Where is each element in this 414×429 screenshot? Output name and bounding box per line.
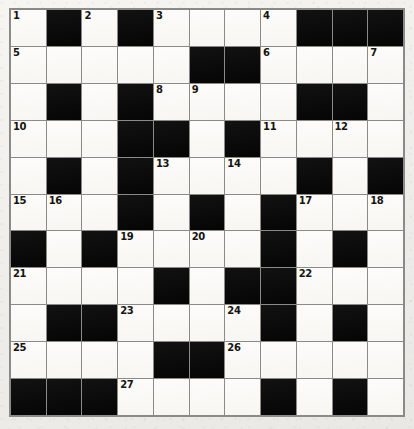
- grid-cell[interactable]: 12: [333, 121, 368, 157]
- grid-cell-blocked: [261, 231, 296, 267]
- grid-cell[interactable]: 21: [11, 268, 46, 304]
- grid-cell[interactable]: [190, 158, 225, 194]
- grid-cell[interactable]: 19: [118, 231, 153, 267]
- grid-cell-blocked: [368, 158, 403, 194]
- grid-cell[interactable]: [154, 47, 189, 83]
- grid-cell[interactable]: [297, 379, 332, 415]
- grid-cell[interactable]: [368, 231, 403, 267]
- grid-cell[interactable]: [368, 379, 403, 415]
- grid-cell[interactable]: [333, 268, 368, 304]
- grid-cell[interactable]: 15: [11, 195, 46, 231]
- grid-cell[interactable]: 17: [297, 195, 332, 231]
- grid-cell[interactable]: [225, 379, 260, 415]
- grid-cell-blocked: [225, 47, 260, 83]
- grid-cell[interactable]: [118, 47, 153, 83]
- grid-cell[interactable]: [333, 195, 368, 231]
- grid-cell[interactable]: [154, 379, 189, 415]
- grid-cell[interactable]: 24: [225, 305, 260, 341]
- grid-cell-blocked: [333, 84, 368, 120]
- grid-cell[interactable]: [82, 47, 117, 83]
- grid-cell[interactable]: 13: [154, 158, 189, 194]
- grid-cell[interactable]: 22: [297, 268, 332, 304]
- grid-cell-blocked: [82, 305, 117, 341]
- grid-cell[interactable]: 25: [11, 342, 46, 378]
- grid-cell[interactable]: [261, 84, 296, 120]
- grid-cell[interactable]: [118, 268, 153, 304]
- grid-cell[interactable]: [82, 195, 117, 231]
- grid-cell[interactable]: 11: [261, 121, 296, 157]
- grid-cell[interactable]: [11, 158, 46, 194]
- grid-cell[interactable]: [333, 47, 368, 83]
- grid-cell[interactable]: [190, 305, 225, 341]
- grid-cell[interactable]: 4: [261, 10, 296, 46]
- clue-number: 20: [192, 231, 205, 243]
- grid-cell[interactable]: [82, 158, 117, 194]
- grid-cell-blocked: [47, 10, 82, 46]
- grid-cell[interactable]: [47, 231, 82, 267]
- grid-cell[interactable]: [333, 342, 368, 378]
- crossword-grid[interactable]: 1234567891011121314151617181920212223242…: [9, 8, 405, 417]
- grid-cell[interactable]: 1: [11, 10, 46, 46]
- grid-cell[interactable]: [82, 84, 117, 120]
- grid-cell[interactable]: 7: [368, 47, 403, 83]
- grid-cell[interactable]: [154, 305, 189, 341]
- grid-cell-blocked: [333, 231, 368, 267]
- grid-cell[interactable]: 27: [118, 379, 153, 415]
- grid-cell[interactable]: [297, 342, 332, 378]
- grid-cell-blocked: [154, 342, 189, 378]
- grid-cell[interactable]: 6: [261, 47, 296, 83]
- grid-cell[interactable]: 10: [11, 121, 46, 157]
- grid-cell[interactable]: [225, 10, 260, 46]
- grid-cell[interactable]: [297, 121, 332, 157]
- grid-cell[interactable]: [225, 195, 260, 231]
- grid-cell[interactable]: [297, 231, 332, 267]
- grid-cell[interactable]: [297, 305, 332, 341]
- grid-cell[interactable]: [11, 84, 46, 120]
- grid-cell-blocked: [333, 10, 368, 46]
- grid-cell[interactable]: 2: [82, 10, 117, 46]
- grid-cell[interactable]: 18: [368, 195, 403, 231]
- grid-cell[interactable]: [333, 158, 368, 194]
- grid-cell[interactable]: [368, 305, 403, 341]
- grid-cell[interactable]: [190, 10, 225, 46]
- grid-cell[interactable]: [368, 121, 403, 157]
- grid-cell[interactable]: [190, 268, 225, 304]
- grid-cell[interactable]: 3: [154, 10, 189, 46]
- grid-cell-blocked: [261, 268, 296, 304]
- grid-cell[interactable]: [118, 342, 153, 378]
- grid-cell[interactable]: [297, 47, 332, 83]
- grid-cell-blocked: [47, 158, 82, 194]
- grid-cell[interactable]: [47, 121, 82, 157]
- clue-number: 3: [156, 10, 163, 22]
- grid-cell[interactable]: [47, 268, 82, 304]
- grid-cell[interactable]: [225, 231, 260, 267]
- grid-cell[interactable]: 16: [47, 195, 82, 231]
- grid-cell[interactable]: [225, 84, 260, 120]
- grid-cell[interactable]: [261, 342, 296, 378]
- grid-cell[interactable]: [368, 84, 403, 120]
- grid-cell[interactable]: 8: [154, 84, 189, 120]
- grid-cell[interactable]: [82, 268, 117, 304]
- grid-cell[interactable]: [368, 342, 403, 378]
- grid-cell-blocked: [333, 305, 368, 341]
- grid-cell[interactable]: [47, 47, 82, 83]
- grid-cell[interactable]: 23: [118, 305, 153, 341]
- clue-number: 21: [13, 268, 26, 280]
- grid-cell[interactable]: [261, 158, 296, 194]
- grid-cell[interactable]: [47, 342, 82, 378]
- grid-cell[interactable]: [368, 268, 403, 304]
- grid-cell[interactable]: 14: [225, 158, 260, 194]
- grid-cell[interactable]: [190, 379, 225, 415]
- grid-cell[interactable]: 20: [190, 231, 225, 267]
- grid-cell-blocked: [333, 379, 368, 415]
- grid-cell[interactable]: [154, 195, 189, 231]
- grid-cell[interactable]: [11, 305, 46, 341]
- grid-cell[interactable]: [82, 342, 117, 378]
- grid-cell[interactable]: [82, 121, 117, 157]
- grid-cell[interactable]: 9: [190, 84, 225, 120]
- grid-cell[interactable]: 5: [11, 47, 46, 83]
- grid-cell-blocked: [261, 195, 296, 231]
- grid-cell[interactable]: [154, 231, 189, 267]
- grid-cell[interactable]: [190, 121, 225, 157]
- grid-cell[interactable]: 26: [225, 342, 260, 378]
